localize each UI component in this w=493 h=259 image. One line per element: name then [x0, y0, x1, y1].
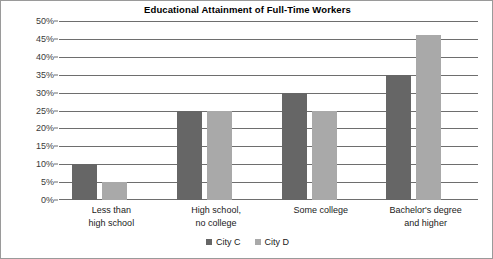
bar-group [59, 21, 164, 200]
y-axis-tick-label: 40% [36, 52, 54, 62]
legend-item[interactable]: City C [206, 237, 241, 247]
y-axis-tick-mark [54, 182, 58, 183]
x-axis-label: Bachelor's degreeand higher [373, 204, 478, 229]
y-axis-tick-label: 35% [36, 70, 54, 80]
x-axis-label: High school,no college [164, 204, 269, 229]
chart-legend: City CCity D [1, 237, 493, 247]
y-axis-tick-label: 45% [36, 34, 54, 44]
bar[interactable] [207, 111, 232, 201]
y-axis-tick-mark [54, 74, 58, 75]
x-axis-label-line: high school [59, 217, 164, 230]
y-axis-tick-label: 5% [41, 177, 54, 187]
y-axis-tick-label: 0% [41, 195, 54, 205]
legend-label: City D [265, 237, 290, 247]
chart-title: Educational Attainment of Full-Time Work… [1, 4, 493, 15]
x-axis-label-line: no college [164, 217, 269, 230]
chart-container: Educational Attainment of Full-Time Work… [0, 0, 493, 259]
bar[interactable] [177, 111, 202, 201]
y-axis-tick-label: 25% [36, 106, 54, 116]
bar[interactable] [416, 35, 441, 200]
x-axis-label-line: and higher [373, 217, 478, 230]
bar-series-group [59, 21, 478, 200]
y-axis-tick-mark [54, 128, 58, 129]
y-axis-tick-mark [54, 146, 58, 147]
y-axis-tick-label: 10% [36, 159, 54, 169]
y-axis-tick-mark [54, 110, 58, 111]
bar[interactable] [386, 75, 411, 200]
y-axis-tick-label: 15% [36, 141, 54, 151]
legend-swatch-icon [255, 239, 261, 245]
x-axis-label-line: High school, [164, 204, 269, 217]
x-axis-label-line: Bachelor's degree [373, 204, 478, 217]
bar[interactable] [102, 182, 127, 200]
bar[interactable] [282, 93, 307, 200]
y-axis-tick-mark [54, 38, 58, 39]
plot-area: 50%45%40%35%30%25%20%15%10%5%0% [59, 21, 478, 200]
legend-label: City C [216, 237, 241, 247]
x-axis-label-line: Some college [269, 204, 374, 217]
legend-swatch-icon [206, 239, 212, 245]
y-axis-tick-mark [54, 21, 58, 22]
x-axis-label-line: Less than [59, 204, 164, 217]
bar-group [373, 21, 478, 200]
y-axis-tick-mark [54, 164, 58, 165]
y-axis-tick-mark [54, 92, 58, 93]
bar-group [164, 21, 269, 200]
y-axis-tick-label: 30% [36, 88, 54, 98]
bar-group [269, 21, 374, 200]
y-axis-tick-label: 50% [36, 16, 54, 26]
x-axis-label: Less thanhigh school [59, 204, 164, 229]
bar[interactable] [72, 164, 97, 200]
x-axis-label: Some college [269, 204, 374, 217]
y-axis-tick-mark [54, 56, 58, 57]
legend-item[interactable]: City D [255, 237, 290, 247]
bar[interactable] [312, 111, 337, 201]
y-axis-tick-mark [54, 200, 58, 201]
x-axis-labels: Less thanhigh schoolHigh school,no colle… [59, 204, 478, 238]
y-axis-tick-label: 20% [36, 123, 54, 133]
